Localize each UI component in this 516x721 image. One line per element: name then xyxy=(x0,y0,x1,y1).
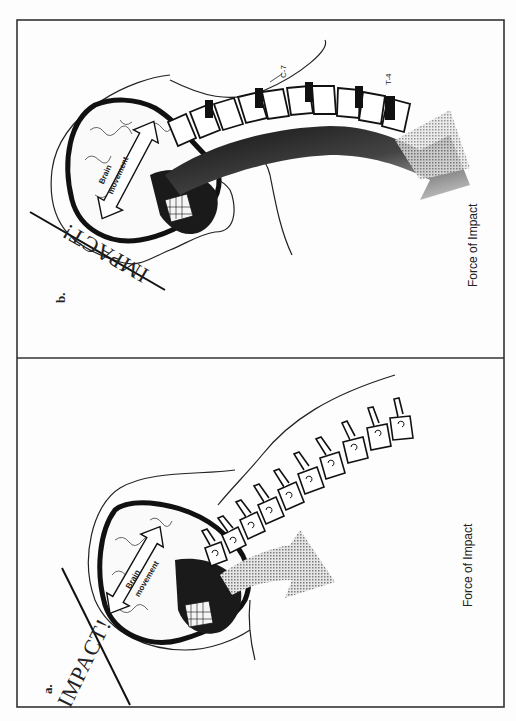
figure-page: a. IMPACT! Brain movement Force of Impac… xyxy=(0,0,516,721)
panel-a-label: a. xyxy=(40,684,56,694)
panel-b-label: b. xyxy=(53,293,69,303)
panel-b-vertebra-label-t4: T-4 xyxy=(384,73,393,85)
panel-a-force-label: Force of Impact xyxy=(461,524,475,607)
figure-drawing xyxy=(0,0,516,721)
panel-b-force-label: Force of Impact xyxy=(466,204,480,287)
panel-a-drawing xyxy=(62,375,413,705)
panel-b-vertebra-label-c7: C-7 xyxy=(279,65,288,78)
